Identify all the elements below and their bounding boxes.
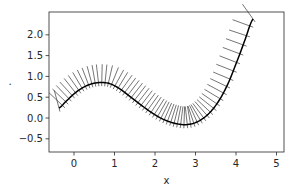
y-tick-label: 0.0 bbox=[27, 113, 43, 124]
axes-frame bbox=[49, 12, 284, 152]
x-tick-label: 3 bbox=[192, 158, 198, 169]
x-tick-label: 2 bbox=[152, 158, 158, 169]
y-axis-label: . bbox=[8, 76, 11, 87]
normal-lines bbox=[49, 4, 255, 128]
y-axis-ticks: −0.50.00.51.01.52.0 bbox=[19, 29, 49, 144]
x-axis-ticks: 012345 bbox=[71, 152, 280, 169]
y-tick-label: 1.0 bbox=[27, 71, 43, 82]
x-tick-label: 1 bbox=[111, 158, 117, 169]
x-tick-label: 0 bbox=[71, 158, 77, 169]
x-tick-label: 5 bbox=[273, 158, 279, 169]
y-tick-label: −0.5 bbox=[19, 133, 43, 144]
y-tick-label: 2.0 bbox=[27, 29, 43, 40]
chart: 012345 −0.50.00.51.01.52.0 x . bbox=[0, 0, 298, 193]
y-tick-label: 1.5 bbox=[27, 50, 43, 61]
y-tick-label: 0.5 bbox=[27, 92, 43, 103]
x-tick-label: 4 bbox=[233, 158, 239, 169]
x-axis-label: x bbox=[164, 175, 170, 186]
curve-line bbox=[59, 19, 253, 125]
